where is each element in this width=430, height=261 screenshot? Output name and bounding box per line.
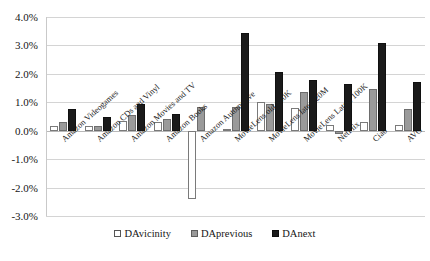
legend-label: DAnext xyxy=(282,228,315,239)
y-axis-tick-label: -2.0% xyxy=(11,182,38,193)
y-axis-tick-label: 3.0% xyxy=(15,40,38,51)
y-axis-tick-label: -1.0% xyxy=(11,154,38,165)
legend-swatch-icon xyxy=(272,230,279,237)
bar xyxy=(404,109,412,130)
bar-chart: 4.0%3.0%2.0%1.0%0.0%-1.0%-2.0%-3.0% Amaz… xyxy=(0,0,430,261)
legend-item[interactable]: DAnext xyxy=(272,228,315,239)
legend-item[interactable]: DAprevious xyxy=(191,228,252,239)
y-axis-tick-label: -3.0% xyxy=(11,211,38,222)
bar xyxy=(378,43,386,131)
legend-swatch-icon xyxy=(191,230,198,237)
y-axis-tick-label: 4.0% xyxy=(15,12,38,23)
bar xyxy=(413,82,421,130)
legend-item[interactable]: DAvicinity xyxy=(114,228,170,239)
gridline xyxy=(46,74,425,75)
gridline xyxy=(46,17,425,18)
bar xyxy=(360,122,368,131)
bar xyxy=(241,33,249,131)
y-axis-tick-labels: 4.0%3.0%2.0%1.0%0.0%-1.0%-2.0%-3.0% xyxy=(0,17,42,216)
legend-label: DAprevious xyxy=(201,228,252,239)
gridline xyxy=(46,45,425,46)
legend-swatch-icon xyxy=(114,230,121,237)
bar xyxy=(369,89,377,130)
chart-legend: DAvicinityDApreviousDAnext xyxy=(0,228,430,239)
y-axis-tick-label: 1.0% xyxy=(15,97,38,108)
x-axis-category-labels: Amazon VideogamesAmazon CDs and VinylAma… xyxy=(46,131,425,261)
y-axis-tick-label: 0.0% xyxy=(15,125,38,136)
bar xyxy=(395,125,403,131)
y-axis-tick-label: 2.0% xyxy=(15,68,38,79)
legend-label: DAvicinity xyxy=(124,228,170,239)
